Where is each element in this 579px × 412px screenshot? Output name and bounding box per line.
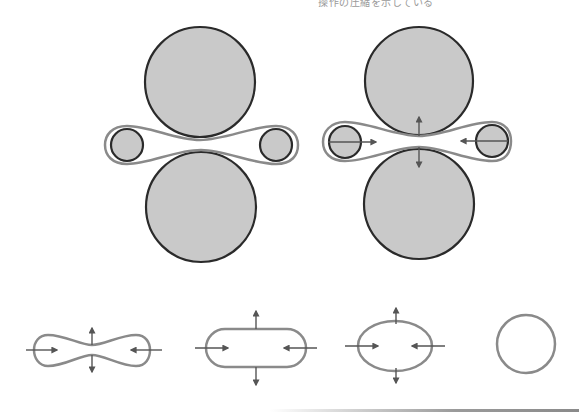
shape-pinched-loop — [26, 328, 162, 372]
panel-left-rollers — [105, 27, 298, 262]
panel-right-rollers — [323, 27, 511, 259]
shape-stadium — [195, 311, 317, 385]
right-small-roller — [260, 129, 292, 161]
shape-circle — [497, 315, 555, 373]
left-small-roller — [111, 129, 143, 161]
shape-ellipse — [345, 308, 445, 383]
upper-large-roller — [145, 27, 255, 137]
roller-compression-diagram — [0, 0, 579, 412]
lower-large-roller — [146, 152, 256, 262]
